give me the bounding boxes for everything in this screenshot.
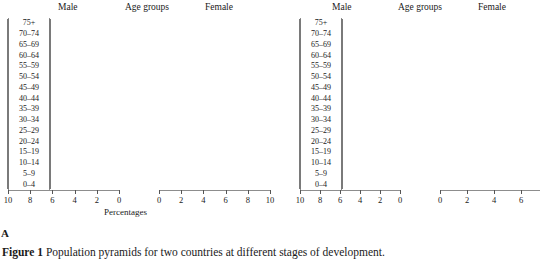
axis-tick (226, 190, 227, 194)
axis-tick (97, 190, 98, 194)
axis-tick (494, 190, 495, 194)
pyramid-bar (341, 40, 343, 51)
age-group-label: 25–29 (9, 126, 49, 137)
pyramid-bar (341, 30, 343, 41)
axis-tick (440, 190, 441, 194)
pyramid-bar (341, 147, 343, 158)
axis-tick (181, 190, 182, 194)
panel-a-age-header: Age groups (125, 2, 169, 12)
axis-tick (8, 190, 9, 194)
age-group-label: 75+ (301, 18, 341, 29)
pyramid-bar (341, 93, 343, 104)
panel-b-header: Male Age groups Female (270, 0, 547, 18)
age-group-label: 40–44 (9, 93, 49, 104)
panel-b-male-header: Male (332, 2, 352, 12)
pyramid-bar (49, 104, 51, 115)
age-group-label: 10–14 (301, 158, 341, 169)
axis-tick (467, 190, 468, 194)
age-group-label: 0–4 (9, 179, 49, 190)
pyramid-bar (341, 51, 343, 62)
axis-tick-label: 4 (72, 195, 76, 205)
pyramid-bar (49, 19, 51, 30)
axis-tick-label: 8 (28, 195, 32, 205)
pyramid-bar (341, 115, 343, 126)
panel-a-header: Male Age groups Female (0, 0, 277, 18)
axis-tick (380, 190, 381, 194)
axis-tick (521, 190, 522, 194)
axis-tick (400, 190, 401, 194)
axis-tick (360, 190, 361, 194)
age-group-label: 10–14 (9, 158, 49, 169)
axis-tick-label: 0 (438, 195, 442, 205)
pyramid-bar (341, 104, 343, 115)
panel-a-x-axis: 10864200246810 (8, 190, 270, 208)
axis-line (440, 190, 540, 191)
pyramid-bar (341, 72, 343, 83)
pyramid-bar (49, 40, 51, 51)
pyramid-bar (49, 51, 51, 62)
panel-a-letter: A (1, 227, 9, 239)
pyramid-bar (49, 136, 51, 147)
panel-a-x-axis-label: Percentages (104, 207, 147, 217)
pyramid-bar (341, 136, 343, 147)
axis-line (300, 190, 400, 191)
age-group-label: 70–74 (9, 29, 49, 40)
axis-tick (159, 190, 160, 194)
age-group-label: 55–59 (9, 61, 49, 72)
figure-caption-text: Population pyramids for two countries at… (46, 246, 385, 258)
pyramid-bar (49, 62, 51, 73)
age-group-label: 50–54 (9, 72, 49, 83)
population-pyramid-panel-b: Male Age groups Female 75+70–7465–6960–6… (270, 0, 547, 240)
pyramid-bar (341, 157, 343, 168)
axis-tick-label: 6 (50, 195, 54, 205)
axis-tick-label: 10 (296, 195, 305, 205)
pyramid-bar (341, 168, 343, 179)
axis-tick-label: 2 (179, 195, 183, 205)
axis-tick-label: 4 (201, 195, 205, 205)
axis-tick-label: 2 (465, 195, 469, 205)
panel-a-female-plot (49, 18, 50, 190)
age-group-label: 75+ (9, 18, 49, 29)
pyramid-bar (49, 178, 51, 189)
pyramid-bar (49, 115, 51, 126)
pyramid-bar (341, 19, 343, 30)
panel-a-male-header: Male (58, 2, 78, 12)
age-group-label: 15–19 (301, 147, 341, 158)
panel-a-age-group-axis: 75+70–7465–6960–6455–5950–5445–4940–4435… (9, 18, 49, 190)
pyramid-bar (341, 125, 343, 136)
axis-tick (320, 190, 321, 194)
pyramid-bar (341, 62, 343, 73)
axis-line (8, 190, 119, 191)
pyramid-bar (49, 30, 51, 41)
axis-tick-label: 6 (223, 195, 227, 205)
axis-tick (248, 190, 249, 194)
age-group-label: 70–74 (301, 29, 341, 40)
axis-tick-label: 6 (338, 195, 342, 205)
axis-tick-label: 0 (117, 195, 121, 205)
axis-tick-label: 8 (318, 195, 322, 205)
axis-tick (119, 190, 120, 194)
figure-container: Male Age groups Female 75+70–7465–6960–6… (0, 0, 547, 268)
age-group-label: 30–34 (301, 115, 341, 126)
pyramid-bar (49, 72, 51, 83)
axis-tick-label: 0 (398, 195, 402, 205)
axis-tick (75, 190, 76, 194)
axis-line (159, 190, 270, 191)
panel-a-female-header: Female (205, 2, 233, 12)
figure-caption-label: Figure 1 (2, 246, 43, 258)
age-group-label: 65–69 (9, 40, 49, 51)
axis-tick-label: 4 (358, 195, 362, 205)
panel-b-age-group-axis: 75+70–7465–6960–6455–5950–5445–4940–4435… (301, 18, 341, 190)
axis-tick-label: 10 (4, 195, 13, 205)
pyramid-bar (49, 93, 51, 104)
panel-b-x-axis: 10864200246 (300, 190, 540, 208)
panel-b-age-header: Age groups (398, 2, 442, 12)
axis-tick-label: 0 (157, 195, 161, 205)
age-group-label: 45–49 (9, 83, 49, 94)
age-group-label: 35–39 (9, 104, 49, 115)
age-group-label: 60–64 (301, 50, 341, 61)
age-group-label: 65–69 (301, 40, 341, 51)
age-group-label: 5–9 (9, 169, 49, 180)
axis-tick (300, 190, 301, 194)
age-group-label: 35–39 (301, 104, 341, 115)
